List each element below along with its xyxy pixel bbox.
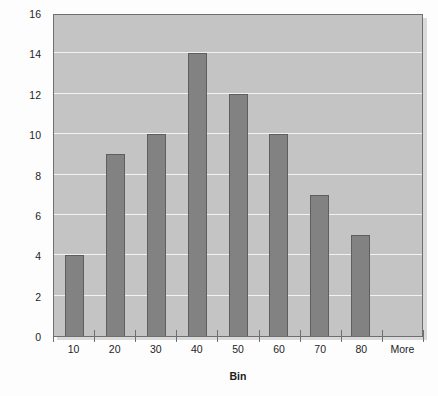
bar[interactable] bbox=[351, 235, 370, 336]
x-axis-tick-label: 80 bbox=[341, 343, 382, 361]
x-axis-tick-mark bbox=[176, 330, 177, 342]
x-axis-tick-marks bbox=[53, 330, 423, 344]
bar[interactable] bbox=[269, 134, 288, 336]
y-axis-tick-label: 0 bbox=[35, 331, 41, 343]
bar-slot bbox=[299, 15, 340, 336]
bar-slot bbox=[340, 15, 381, 336]
y-axis-tick-label: 14 bbox=[29, 48, 41, 60]
y-axis-tick-label: 12 bbox=[29, 89, 41, 101]
bar-slot bbox=[54, 15, 95, 336]
x-axis-tick-mark bbox=[94, 330, 95, 342]
x-axis-tick-mark bbox=[135, 330, 136, 342]
bar-slot bbox=[177, 15, 218, 336]
y-axis-tick-label: 2 bbox=[35, 291, 41, 303]
y-axis-tick-label: 8 bbox=[35, 170, 41, 182]
bar[interactable] bbox=[65, 255, 84, 336]
x-axis-tick-label: 70 bbox=[300, 343, 341, 361]
x-axis-tick-mark bbox=[382, 330, 383, 342]
y-axis-tick-labels: 0246810121416 bbox=[0, 14, 48, 337]
bar-series bbox=[54, 15, 422, 336]
plot-area bbox=[53, 14, 423, 337]
bar[interactable] bbox=[188, 53, 207, 336]
bar-slot bbox=[218, 15, 259, 336]
y-axis-tick-label: 4 bbox=[35, 250, 41, 262]
y-axis-tick-label: 6 bbox=[35, 210, 41, 222]
y-axis-tick-label: 10 bbox=[29, 129, 41, 141]
bar[interactable] bbox=[106, 154, 125, 336]
x-axis-tick-mark bbox=[300, 330, 301, 342]
bar-slot bbox=[136, 15, 177, 336]
bar-slot bbox=[258, 15, 299, 336]
x-axis-tick-label: 40 bbox=[176, 343, 217, 361]
x-axis-tick-label: 30 bbox=[135, 343, 176, 361]
bar[interactable] bbox=[147, 134, 166, 336]
x-axis-tick-label: More bbox=[382, 343, 423, 361]
bar-slot bbox=[381, 15, 422, 336]
bar[interactable] bbox=[310, 195, 329, 336]
bar-slot bbox=[95, 15, 136, 336]
x-axis-tick-labels: 1020304050607080More bbox=[53, 343, 423, 361]
x-axis-tick-mark bbox=[53, 330, 54, 342]
histogram-chart: Frequency 0246810121416 1020304050607080… bbox=[0, 0, 438, 396]
bar[interactable] bbox=[229, 94, 248, 336]
x-axis-tick-label: 10 bbox=[53, 343, 94, 361]
x-axis-tick-mark bbox=[217, 330, 218, 342]
x-axis-tick-mark bbox=[423, 330, 424, 342]
y-axis-tick-label: 16 bbox=[29, 8, 41, 20]
x-axis-tick-mark bbox=[341, 330, 342, 342]
y-axis-title: Frequency bbox=[5, 0, 27, 13]
x-axis-tick-label: 50 bbox=[217, 343, 258, 361]
x-axis-tick-label: 60 bbox=[259, 343, 300, 361]
x-axis-tick-mark bbox=[259, 330, 260, 342]
x-axis-tick-label: 20 bbox=[94, 343, 135, 361]
x-axis-title: Bin bbox=[53, 370, 423, 382]
